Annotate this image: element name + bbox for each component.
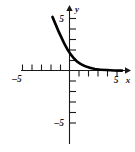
exponential-decay-graph-figure: –5 5 5 –5 x y — [0, 0, 135, 152]
exponential-decay-curve — [53, 17, 123, 71]
y-axis-bottom-tick-label: –5 — [54, 118, 65, 128]
x-axis-left-tick-label: –5 — [11, 74, 22, 84]
y-axis-name-label: y — [74, 4, 80, 14]
y-axis-arrowhead — [66, 5, 72, 11]
x-axis-name-label: x — [125, 75, 131, 85]
coordinate-plane-svg: –5 5 5 –5 x y — [0, 0, 135, 152]
x-axis-arrowhead — [125, 67, 131, 74]
y-axis-top-tick-label: 5 — [59, 14, 64, 24]
x-axis-ticks-negative — [23, 65, 61, 71]
x-axis-right-tick-label: 5 — [114, 75, 119, 85]
